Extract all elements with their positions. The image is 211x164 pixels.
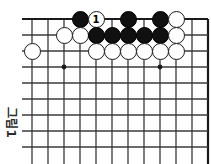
white-stone[interactable] — [168, 11, 185, 28]
white-stone[interactable] — [120, 43, 137, 60]
black-stone[interactable] — [152, 27, 169, 44]
white-stone[interactable] — [72, 27, 89, 44]
black-stone[interactable] — [136, 27, 153, 44]
black-stone[interactable] — [120, 27, 137, 44]
go-diagram-figure: 1 그림1 — [0, 0, 211, 164]
black-stone[interactable] — [88, 27, 105, 44]
white-stone[interactable] — [104, 43, 121, 60]
black-stone[interactable] — [104, 27, 121, 44]
white-stone[interactable] — [136, 43, 153, 60]
star-point — [62, 65, 67, 70]
black-stone[interactable] — [72, 11, 89, 28]
star-point — [158, 65, 163, 70]
stone-move-number: 1 — [89, 12, 104, 27]
white-stone[interactable]: 1 — [88, 11, 105, 28]
white-stone[interactable] — [88, 43, 105, 60]
black-stone[interactable] — [152, 11, 169, 28]
white-stone[interactable] — [152, 43, 169, 60]
black-stone[interactable] — [120, 11, 137, 28]
white-stone[interactable] — [168, 43, 185, 60]
white-stone[interactable] — [168, 27, 185, 44]
white-stone[interactable] — [24, 43, 41, 60]
white-stone[interactable] — [56, 27, 73, 44]
